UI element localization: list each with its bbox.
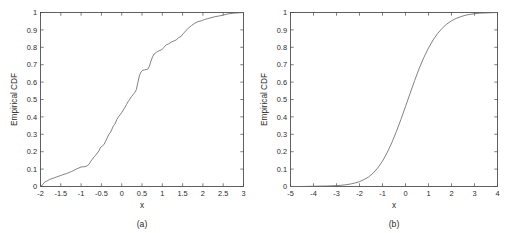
y-tick-label: 0.4 <box>27 113 37 122</box>
x-tick-label: -1 <box>379 189 386 198</box>
y-axis-title: Empirical CDF <box>260 73 269 126</box>
x-axis-title: x <box>140 201 144 210</box>
y-tick-label: 0.8 <box>27 43 37 52</box>
panel-a: -2-1.5-1-0.500.511.522.5300.10.20.30.40.… <box>0 0 257 233</box>
x-tick-label: 1.5 <box>177 189 187 198</box>
x-tick-label: 1 <box>160 189 164 198</box>
x-tick-label: 4 <box>495 189 499 198</box>
x-tick-label: -2 <box>37 189 44 198</box>
y-tick-label: 0.9 <box>277 26 287 35</box>
cdf-curve <box>41 13 244 187</box>
x-tick-label: 2.5 <box>218 189 228 198</box>
y-tick-label: 0 <box>33 182 37 191</box>
panel-b: -5-4-3-2-10123400.10.20.30.40.50.60.70.8… <box>258 0 515 233</box>
y-tick-label: 0.2 <box>277 147 287 156</box>
y-tick-label: 0.3 <box>277 130 287 139</box>
y-tick-label: 1 <box>33 8 37 17</box>
panel-b-canvas: -5-4-3-2-10123400.10.20.30.40.50.60.70.8… <box>258 0 515 233</box>
y-tick-label: 0.3 <box>27 130 37 139</box>
x-tick-label: -2 <box>356 189 363 198</box>
panel-a-svg: -2-1.5-1-0.500.511.522.5300.10.20.30.40.… <box>0 0 257 233</box>
y-tick-label: 0.1 <box>27 165 37 174</box>
x-tick-label: 3 <box>241 189 245 198</box>
x-tick-label: 2 <box>201 189 205 198</box>
panel-b-plot-area: -5-4-3-2-10123400.10.20.30.40.50.60.70.8… <box>260 8 500 228</box>
y-axis-title: Empirical CDF <box>10 73 19 126</box>
x-tick-label: 3 <box>472 189 476 198</box>
y-tick-label: 0.2 <box>27 147 37 156</box>
x-tick-label: -5 <box>287 189 294 198</box>
x-tick-label: 1 <box>426 189 430 198</box>
plot-box <box>41 13 244 187</box>
y-tick-label: 0.4 <box>277 113 287 122</box>
panel-b-svg: -5-4-3-2-10123400.10.20.30.40.50.60.70.8… <box>258 0 515 233</box>
panel-a-canvas: -2-1.5-1-0.500.511.522.5300.10.20.30.40.… <box>0 0 257 233</box>
x-tick-label: 0.5 <box>137 189 147 198</box>
x-tick-label: -1.5 <box>54 189 67 198</box>
x-tick-label: 0 <box>403 189 407 198</box>
figure-container: -2-1.5-1-0.500.511.522.5300.10.20.30.40.… <box>0 0 515 233</box>
x-tick-label: -1 <box>78 189 85 198</box>
cdf-curve <box>291 13 498 187</box>
y-tick-label: 0.9 <box>27 26 37 35</box>
y-tick-label: 0.7 <box>277 60 287 69</box>
y-tick-label: 0.6 <box>277 78 287 87</box>
x-tick-label: 2 <box>449 189 453 198</box>
y-tick-label: 0.5 <box>277 95 287 104</box>
x-tick-label: -4 <box>310 189 317 198</box>
y-tick-label: 0.6 <box>27 78 37 87</box>
panel-caption: (a) <box>137 219 148 229</box>
y-tick-label: 1 <box>283 8 287 17</box>
x-axis-title: x <box>392 201 396 210</box>
plot-box <box>291 13 498 187</box>
panel-a-plot-area: -2-1.5-1-0.500.511.522.5300.10.20.30.40.… <box>10 8 246 228</box>
y-tick-label: 0.8 <box>277 43 287 52</box>
y-tick-label: 0.7 <box>27 60 37 69</box>
y-tick-label: 0 <box>283 182 287 191</box>
y-tick-label: 0.5 <box>27 95 37 104</box>
x-tick-label: 0 <box>120 189 124 198</box>
x-tick-label: -0.5 <box>95 189 108 198</box>
x-tick-label: -3 <box>333 189 340 198</box>
panel-caption: (b) <box>389 219 400 229</box>
y-tick-label: 0.1 <box>277 165 287 174</box>
